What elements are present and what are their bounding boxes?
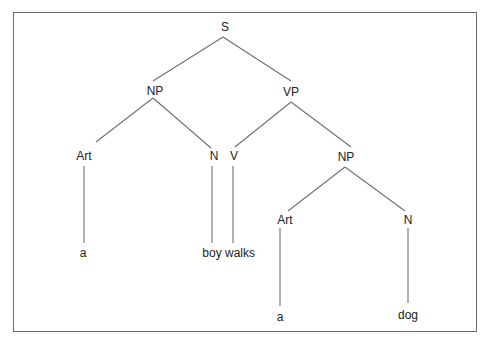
tree-edges bbox=[0, 0, 492, 347]
node-s: S bbox=[221, 21, 229, 33]
edge-np1-n1 bbox=[153, 98, 211, 148]
edge-s-vp bbox=[223, 37, 291, 81]
node-n-subject: N bbox=[210, 150, 219, 162]
edge-np2-art2 bbox=[288, 167, 345, 211]
node-art-subject: Art bbox=[76, 150, 91, 162]
edge-vp-np2 bbox=[291, 102, 351, 147]
edge-np1-art1 bbox=[96, 98, 153, 142]
node-vp: VP bbox=[283, 86, 299, 98]
node-n-object: N bbox=[404, 214, 413, 226]
node-np-object: NP bbox=[338, 151, 355, 163]
node-np-subject: NP bbox=[147, 85, 164, 97]
leaf-dog: dog bbox=[398, 309, 418, 321]
leaf-a-subject: a bbox=[80, 247, 87, 259]
node-art-object: Art bbox=[277, 214, 292, 226]
edge-np2-n2 bbox=[345, 167, 405, 211]
edge-s-np1 bbox=[153, 37, 223, 81]
leaf-a-object: a bbox=[277, 311, 284, 323]
leaf-boy: boy bbox=[202, 247, 221, 259]
leaf-walks: walks bbox=[225, 247, 255, 259]
edge-vp-v bbox=[235, 102, 291, 147]
node-v: V bbox=[230, 150, 238, 162]
